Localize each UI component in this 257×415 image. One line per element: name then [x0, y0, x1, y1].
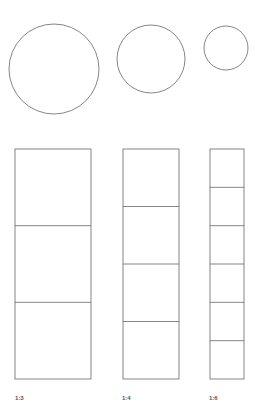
label-ratio-1-3: 1:3: [15, 395, 24, 401]
column-rect-1-3: [15, 149, 91, 379]
circle-medium: [117, 25, 185, 93]
diagram-canvas: [0, 0, 257, 415]
label-ratio-1-4: 1:4: [122, 395, 131, 401]
label-ratio-1-6: 1:6: [209, 395, 218, 401]
circle-small: [204, 26, 248, 70]
divided-columns: [15, 149, 244, 379]
circle-large: [9, 24, 99, 114]
